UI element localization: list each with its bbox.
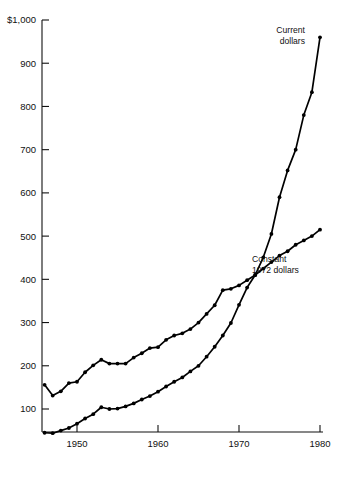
data-point [197, 364, 201, 368]
data-point [91, 363, 95, 367]
data-point [156, 345, 160, 349]
data-point [83, 370, 87, 374]
y-tick-label: 900 [20, 58, 36, 69]
data-point [205, 312, 209, 316]
x-tick-label: 1970 [228, 438, 249, 449]
data-point [229, 321, 233, 325]
data-point [286, 169, 290, 173]
data-point [67, 426, 71, 430]
data-point [124, 362, 128, 366]
data-point [124, 405, 128, 409]
data-point [278, 195, 282, 199]
data-point [140, 398, 144, 402]
y-axis-ticks: 100200300400500600700800900$1,000 [7, 14, 49, 414]
data-point [51, 431, 55, 435]
data-point [237, 303, 241, 307]
data-point [205, 355, 209, 359]
chart-container: 100200300400500600700800900$1,000 195019… [0, 0, 343, 477]
y-tick-label: 600 [20, 187, 36, 198]
data-point [116, 362, 120, 366]
data-point [180, 376, 184, 380]
data-point [156, 390, 160, 394]
data-point [67, 381, 71, 385]
series-label-current-dollars: Current [276, 25, 305, 35]
data-point [237, 283, 241, 287]
data-point [43, 383, 47, 387]
data-point [197, 321, 201, 325]
data-point [221, 288, 225, 292]
line-chart: 100200300400500600700800900$1,000 195019… [0, 0, 343, 477]
data-point [59, 429, 63, 433]
y-tick-label: 200 [20, 360, 36, 371]
data-point [172, 334, 176, 338]
y-tick-label: 700 [20, 144, 36, 155]
data-point [294, 148, 298, 152]
data-point [294, 243, 298, 247]
data-point [59, 389, 63, 393]
data-point [108, 407, 112, 411]
data-point [75, 380, 79, 384]
data-point [83, 417, 87, 421]
y-tick-label: 500 [20, 231, 36, 242]
data-point [91, 412, 95, 416]
data-point [99, 405, 103, 409]
x-tick-label: 1980 [309, 438, 330, 449]
data-point [75, 422, 79, 426]
data-point [172, 380, 176, 384]
data-point [229, 287, 233, 291]
data-point [310, 90, 314, 94]
data-point [318, 35, 322, 39]
x-tick-label: 1950 [66, 438, 87, 449]
data-point [189, 327, 193, 331]
data-point [132, 356, 136, 360]
data-point [310, 234, 314, 238]
data-point [245, 286, 249, 290]
data-point [148, 346, 152, 350]
data-point [99, 358, 103, 362]
data-point [51, 394, 55, 398]
data-point [302, 113, 306, 117]
y-tick-label: 300 [20, 317, 36, 328]
data-point [140, 351, 144, 355]
series-label-constant-dollars-line2: 1972 dollars [252, 265, 299, 275]
y-tick-label: $1,000 [7, 14, 36, 25]
series-label-constant-dollars: Constant [252, 254, 287, 264]
data-point [302, 239, 306, 243]
y-tick-label: 400 [20, 274, 36, 285]
y-tick-label: 100 [20, 403, 36, 414]
data-point [116, 407, 120, 411]
data-point [108, 362, 112, 366]
data-point [43, 431, 47, 435]
data-point [148, 394, 152, 398]
data-point [318, 228, 322, 232]
series-label-current-dollars-line2: dollars [280, 36, 305, 46]
data-point [180, 331, 184, 335]
data-point [221, 334, 225, 338]
data-point [164, 338, 168, 342]
data-point [213, 345, 217, 349]
x-tick-label: 1960 [147, 438, 168, 449]
x-axis-ticks: 1950196019701980 [66, 425, 330, 449]
data-point [245, 278, 249, 282]
data-point [189, 370, 193, 374]
data-point [213, 303, 217, 307]
series-layer [43, 35, 322, 435]
data-point [286, 249, 290, 253]
data-point [132, 401, 136, 405]
data-point [164, 385, 168, 389]
data-point [270, 232, 274, 236]
y-tick-label: 800 [20, 101, 36, 112]
